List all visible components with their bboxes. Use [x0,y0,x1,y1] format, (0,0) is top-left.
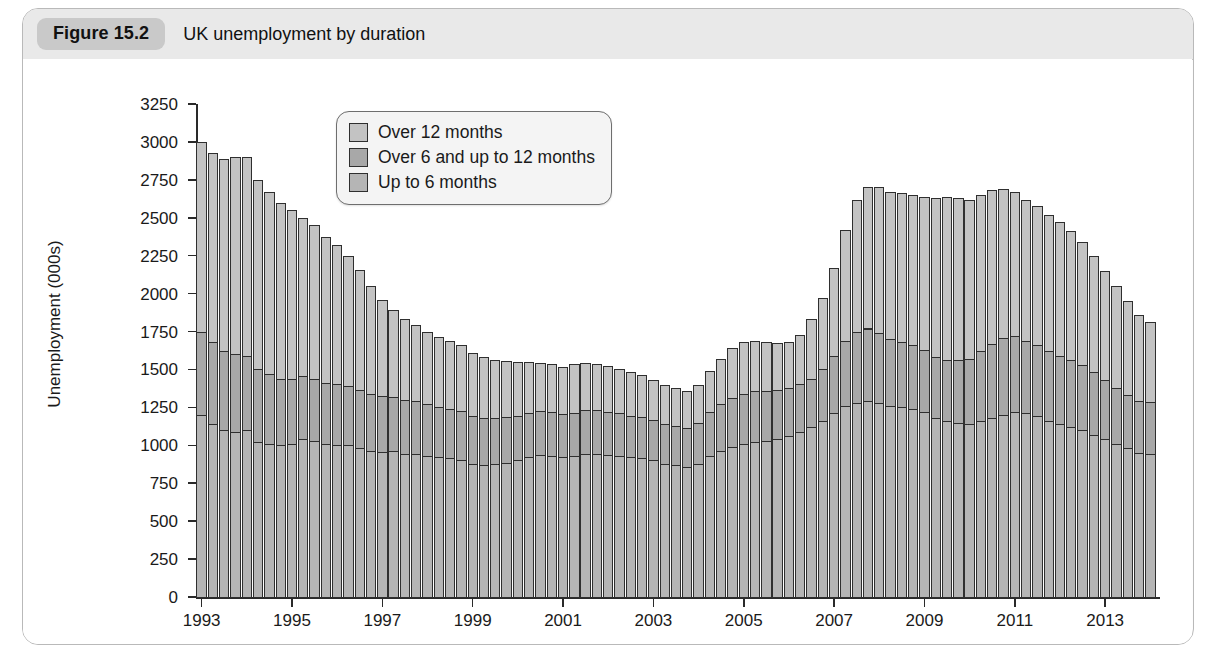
bar-segment-over12 [671,388,681,427]
bar-segment-over6to12 [434,407,444,458]
y-tick-label: 2000 [114,285,178,305]
y-tick-mark [188,217,196,219]
x-tick-mark [472,599,474,607]
bar-segment-over6to12 [1044,351,1054,422]
x-tick-mark [1104,599,1106,607]
y-tick-label: 2750 [114,171,178,191]
bar-segment-upto6 [332,445,342,598]
bar-column [1111,104,1121,597]
bar-segment-upto6 [1077,430,1087,598]
bar-segment-over12 [1032,206,1042,347]
bar-segment-over6to12 [309,379,319,442]
bar-segment-upto6 [287,444,297,598]
bar-segment-over6to12 [355,390,365,449]
x-tick-mark [743,599,745,607]
x-tick-label: 2005 [725,611,763,631]
bar-segment-over12 [998,189,1008,339]
bar-column [693,104,703,597]
bar-segment-over12 [897,193,907,343]
bar-segment-over6to12 [964,359,974,425]
bar-column [829,104,839,597]
bar-column [660,104,670,597]
bar-segment-upto6 [1111,444,1121,598]
bar-column [919,104,929,597]
bar-column [1032,104,1042,597]
bar-segment-over6to12 [547,412,557,457]
x-tick-label: 1997 [363,611,401,631]
bar-column [761,104,771,597]
y-tick-label: 3000 [114,133,178,153]
bar-segment-over6to12 [456,411,466,461]
bar-segment-upto6 [434,457,444,598]
bar-segment-over12 [987,190,997,344]
bar-segment-over12 [1021,200,1031,342]
bar-column [637,104,647,597]
x-tick-mark [653,599,655,607]
legend-item[interactable]: Up to 6 months [349,170,595,195]
bar-segment-over12 [739,342,749,395]
bar-segment-over6to12 [1066,360,1076,428]
bar-segment-over12 [953,198,963,361]
bar-column [626,104,636,597]
bar-segment-over6to12 [761,391,771,442]
legend-item[interactable]: Over 6 and up to 12 months [349,145,595,170]
bar-segment-over12 [682,391,692,429]
bar-column [1145,104,1155,597]
bar-segment-upto6 [626,457,636,598]
bar-segment-over6to12 [693,423,703,465]
bar-segment-upto6 [693,464,703,598]
y-tick-mark [188,596,196,598]
bar-segment-upto6 [987,418,997,598]
bar-segment-upto6 [1021,413,1031,598]
bar-segment-over12 [614,369,624,415]
bar-segment-over6to12 [682,428,692,468]
x-tick-mark [291,599,293,607]
bar-segment-over12 [637,375,647,418]
x-tick-label: 2011 [997,611,1034,631]
bar-segment-upto6 [1134,453,1144,598]
bar-segment-upto6 [1055,424,1065,598]
chart-legend: Over 12 monthsOver 6 and up to 12 months… [336,111,612,205]
bar-column [908,104,918,597]
bar-segment-upto6 [309,441,319,598]
bar-segment-over6to12 [196,332,206,416]
bar-segment-over12 [479,357,489,419]
bar-column [682,104,692,597]
bar-segment-over12 [513,362,523,417]
bar-column [897,104,907,597]
bar-segment-upto6 [456,460,466,598]
bar-segment-over6to12 [852,332,862,404]
bar-segment-upto6 [1010,412,1020,598]
bar-segment-over12 [772,343,782,391]
bar-segment-upto6 [1100,439,1110,598]
bar-segment-over6to12 [716,404,726,452]
bar-segment-over6to12 [445,409,455,459]
bar-segment-upto6 [377,452,387,598]
legend-item[interactable]: Over 12 months [349,120,595,145]
bar-segment-over12 [840,230,850,342]
y-tick-label: 3250 [114,95,178,115]
bar-segment-upto6 [1123,448,1133,598]
bar-segment-over6to12 [840,341,850,407]
bar-segment-over12 [829,268,839,357]
bar-segment-upto6 [524,457,534,598]
bar-segment-over6to12 [1021,341,1031,415]
bar-segment-upto6 [840,406,850,598]
y-tick-mark [188,103,196,105]
bar-segment-over6to12 [897,342,907,408]
bar-segment-over12 [1044,215,1054,353]
bar-column [321,104,331,597]
bar-segment-over12 [411,325,421,402]
bar-segment-upto6 [637,458,647,598]
bar-segment-upto6 [942,421,952,598]
legend-label: Over 6 and up to 12 months [378,147,595,168]
bar-segment-upto6 [660,464,670,598]
bar-segment-over12 [287,210,297,379]
bar-segment-over6to12 [919,350,929,413]
x-tick-label: 1999 [454,611,492,631]
bar-column [230,104,240,597]
x-tick-mark [562,599,564,607]
bar-column [1044,104,1054,597]
bar-segment-over12 [908,195,918,346]
bar-segment-over6to12 [1055,356,1065,425]
